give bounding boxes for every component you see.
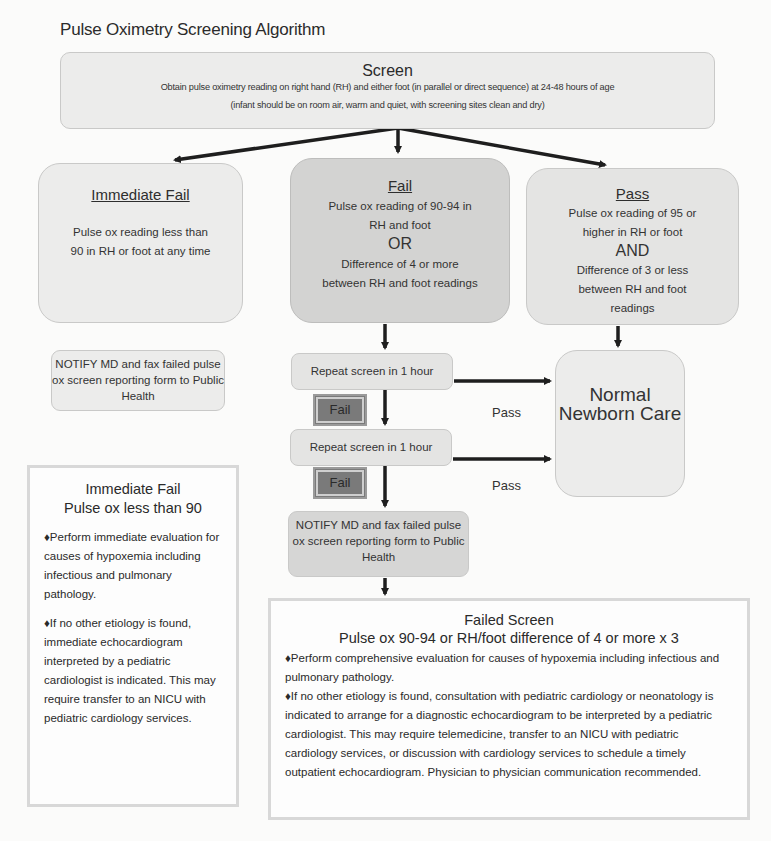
- immediate-fail-box: Immediate Fail Pulse ox reading less tha…: [38, 163, 243, 323]
- immediate-fail-panel-heading: Immediate Fail Pulse ox less than 90: [44, 480, 222, 518]
- immediate-fail-panel-subtitle: Pulse ox less than 90: [44, 499, 222, 518]
- pass-criteria-2: Difference of 3 or less between RH and f…: [558, 261, 708, 318]
- fail-or: OR: [291, 235, 509, 253]
- failed-screen-panel: Failed Screen Pulse ox 90-94 or RH/foot …: [268, 598, 750, 820]
- notify-md-center-box: NOTIFY MD and fax failed pulse ox screen…: [288, 511, 469, 577]
- fail-tag-1: Fail: [313, 394, 367, 426]
- pass-label-1: Pass: [492, 405, 521, 420]
- notify-md-left-box: NOTIFY MD and fax failed pulse ox screen…: [51, 350, 225, 411]
- failed-screen-bullet-2: ♦If no other etiology is found, consulta…: [285, 687, 733, 782]
- immediate-fail-heading: Immediate Fail: [39, 186, 242, 203]
- repeat-screen-2-box: Repeat screen in 1 hour: [290, 429, 452, 466]
- immediate-fail-panel: Immediate Fail Pulse ox less than 90 ♦Pe…: [27, 465, 239, 807]
- normal-newborn-care-box: Normal Newborn Care: [555, 350, 685, 497]
- immediate-fail-bullet-1: ♦Perform immediate evaluation for causes…: [44, 528, 222, 604]
- immediate-fail-criteria: Pulse ox reading less than 90 in RH or f…: [66, 223, 216, 261]
- pass-label-2: Pass: [492, 478, 521, 493]
- page-title: Pulse Oximetry Screening Algorithm: [60, 20, 325, 40]
- fail-criteria-1: Pulse ox reading of 90-94 in RH and foot: [320, 197, 480, 235]
- pass-heading: Pass: [527, 185, 738, 203]
- screen-box: Screen Obtain pulse oximetry reading on …: [60, 52, 715, 129]
- failed-screen-bullet-1: ♦Perform comprehensive evaluation for ca…: [285, 649, 733, 687]
- failed-screen-panel-subtitle: Pulse ox 90-94 or RH/foot difference of …: [285, 629, 733, 647]
- fail-criteria-2: Difference of 4 or more between RH and f…: [320, 255, 480, 293]
- fail-heading: Fail: [291, 177, 509, 195]
- immediate-fail-bullet-2: ♦If no other etiology is found, immediat…: [44, 614, 222, 728]
- fail-tag-2: Fail: [313, 467, 367, 499]
- repeat-screen-1-box: Repeat screen in 1 hour: [291, 353, 453, 390]
- pass-and: AND: [527, 242, 738, 260]
- screen-heading: Screen: [61, 62, 714, 80]
- failed-screen-panel-title: Failed Screen: [285, 611, 733, 629]
- immediate-fail-panel-title: Immediate Fail: [44, 480, 222, 499]
- fail-box: Fail Pulse ox reading of 90-94 in RH and…: [290, 158, 510, 323]
- pass-box: Pass Pulse ox reading of 95 or higher in…: [526, 168, 739, 325]
- pass-criteria-1: Pulse ox reading of 95 or higher in RH o…: [558, 204, 708, 242]
- screen-instruction: Obtain pulse oximetry reading on right h…: [61, 82, 714, 92]
- screen-conditions: (infant should be on room air, warm and …: [61, 100, 714, 110]
